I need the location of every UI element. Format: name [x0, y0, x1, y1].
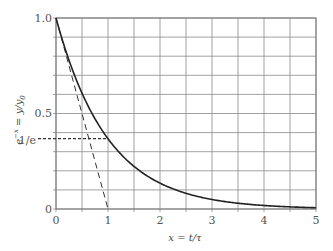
x-tick: 2: [157, 214, 164, 227]
y-tick-half: 0.5: [35, 107, 53, 120]
y-tick-0: 0: [45, 203, 52, 216]
x-ticks: 0 1 2 3 4 5: [53, 214, 320, 227]
x-tick: 5: [313, 214, 320, 227]
y-tick-1: 1.0: [35, 12, 53, 25]
x-tick: 0: [53, 214, 60, 227]
x-tick: 4: [261, 214, 268, 227]
x-tick: 3: [209, 214, 216, 227]
y-label-rest: = y/y: [13, 99, 24, 129]
chart: 1.0 0.5 1/e 0 0 1 2 3 4 5 x = t/τ e−x = …: [0, 0, 333, 251]
y-label-exp: −x: [12, 129, 20, 139]
x-axis-label: x = t/τ: [168, 232, 202, 243]
y-label-sub: 0: [19, 95, 27, 100]
x-tick: 1: [105, 214, 112, 227]
